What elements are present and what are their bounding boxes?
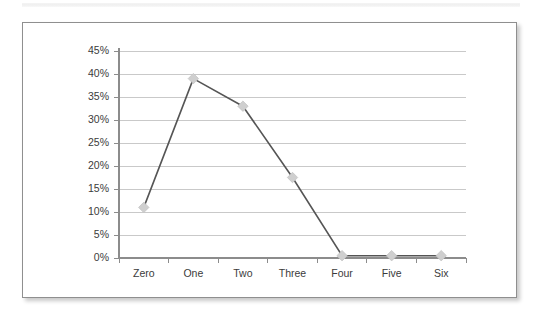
data-point-marker	[139, 202, 149, 212]
x-axis-ticks-group	[119, 258, 466, 263]
y-axis-tick-label: 25%	[88, 136, 109, 148]
data-point-marker	[436, 251, 446, 261]
y-axis-tick-label: 10%	[88, 205, 109, 217]
y-axis-tick-label: 5%	[94, 228, 109, 240]
x-axis-tick-label: Two	[233, 267, 252, 279]
gridlines-group	[119, 51, 466, 235]
y-axis-tick-label: 40%	[88, 67, 109, 79]
chart-plot-area: 0%5%10%15%20%25%30%35%40%45% ZeroOneTwoT…	[23, 23, 518, 299]
x-axis-tick-label: Zero	[133, 267, 155, 279]
x-axis-tick-label: Six	[434, 267, 449, 279]
y-axis-tick-label: 30%	[88, 113, 109, 125]
data-point-marker	[238, 101, 248, 111]
line-chart: 0%5%10%15%20%25%30%35%40%45% ZeroOneTwoT…	[23, 23, 518, 299]
series-line	[144, 79, 441, 256]
scan-artifact-band	[22, 3, 520, 7]
x-axis-labels-group: ZeroOneTwoThreeFourFiveSix	[133, 267, 449, 279]
data-point-marker	[287, 172, 297, 182]
x-axis-tick-label: One	[183, 267, 203, 279]
y-axis-tick-label: 20%	[88, 159, 109, 171]
y-axis-tick-label: 35%	[88, 90, 109, 102]
data-point-marker	[337, 251, 347, 261]
x-axis-tick-label: Four	[331, 267, 353, 279]
y-axis-labels-group: 0%5%10%15%20%25%30%35%40%45%	[88, 44, 109, 263]
data-series-group	[144, 79, 441, 256]
y-axis-tick-label: 0%	[94, 251, 109, 263]
y-axis-ticks-group	[114, 51, 119, 258]
x-axis-tick-label: Five	[382, 267, 402, 279]
x-axis-group	[119, 48, 466, 258]
data-point-marker	[188, 73, 198, 83]
y-axis-tick-label: 45%	[88, 44, 109, 56]
x-axis-tick-label: Three	[279, 267, 307, 279]
y-axis-tick-label: 15%	[88, 182, 109, 194]
chart-card: 0%5%10%15%20%25%30%35%40%45% ZeroOneTwoT…	[22, 22, 517, 298]
data-point-marker	[386, 251, 396, 261]
